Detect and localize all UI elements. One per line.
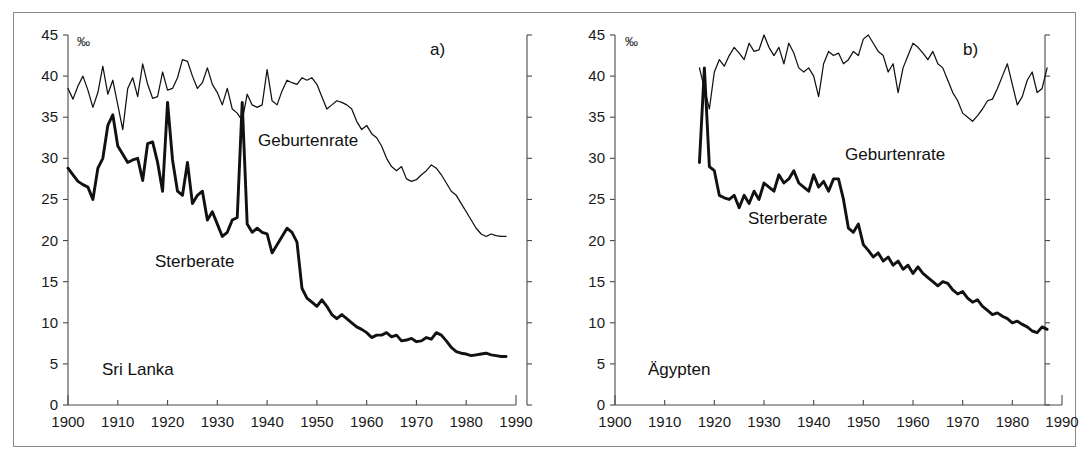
- panel-aegypten: 0510152025303540451900191019201930194019…: [545, 0, 1089, 462]
- y-tick-label-30: 30: [588, 149, 605, 166]
- y-tick-label-35: 35: [588, 108, 605, 125]
- y-tick-label-25: 25: [41, 190, 58, 207]
- chart-svg-aegypten: 0510152025303540451900191019201930194019…: [545, 0, 1089, 462]
- x-tick-label-1980: 1980: [450, 413, 483, 430]
- series-label-sterberate: Sterberate: [155, 252, 234, 271]
- x-tick-label-1960: 1960: [896, 413, 929, 430]
- y-tick-label-45: 45: [588, 26, 605, 43]
- x-tick-label-1930: 1930: [747, 413, 780, 430]
- y-tick-label-0: 0: [597, 396, 605, 413]
- x-tick-label-1950: 1950: [847, 413, 880, 430]
- y-tick-label-5: 5: [50, 355, 58, 372]
- panel-marker-label: b): [963, 40, 978, 59]
- x-tick-label-1940: 1940: [250, 413, 283, 430]
- x-tick-label-1920: 1920: [151, 413, 184, 430]
- y-axis-unit-label: ‰: [625, 34, 638, 49]
- x-tick-label-1910: 1910: [648, 413, 681, 430]
- y-tick-label-5: 5: [597, 355, 605, 372]
- curve-geburtenrate: [699, 35, 1047, 121]
- y-tick-label-30: 30: [41, 149, 58, 166]
- x-tick-label-1930: 1930: [201, 413, 234, 430]
- x-tick-label-1910: 1910: [101, 413, 134, 430]
- x-tick-label-1990: 1990: [499, 413, 532, 430]
- x-tick-label-1950: 1950: [300, 413, 333, 430]
- series-label-sterberate: Sterberate: [748, 209, 827, 228]
- y-tick-label-10: 10: [41, 314, 58, 331]
- series-label-geburtenrate: Geburtenrate: [258, 131, 358, 150]
- x-tick-label-1980: 1980: [996, 413, 1029, 430]
- series-label-geburtenrate: Geburtenrate: [845, 145, 945, 164]
- y-tick-label-40: 40: [41, 67, 58, 84]
- x-tick-label-1960: 1960: [350, 413, 383, 430]
- panel-marker-label: a): [430, 40, 445, 59]
- y-tick-label-45: 45: [41, 26, 58, 43]
- x-tick-label-1940: 1940: [797, 413, 830, 430]
- y-tick-label-25: 25: [588, 190, 605, 207]
- y-tick-label-0: 0: [50, 396, 58, 413]
- y-axis-unit-label: ‰: [77, 34, 90, 49]
- x-tick-label-1900: 1900: [51, 413, 84, 430]
- country-caption-label: Ägypten: [648, 360, 710, 379]
- x-tick-label-1970: 1970: [946, 413, 979, 430]
- y-tick-label-20: 20: [41, 232, 58, 249]
- country-caption-label: Sri Lanka: [102, 360, 174, 379]
- chart-svg-sri-lanka: 0510152025303540451900191019201930194019…: [0, 0, 545, 462]
- x-tick-label-1990: 1990: [1045, 413, 1078, 430]
- y-tick-label-15: 15: [41, 273, 58, 290]
- x-tick-label-1900: 1900: [598, 413, 631, 430]
- x-tick-label-1970: 1970: [400, 413, 433, 430]
- x-tick-label-1920: 1920: [698, 413, 731, 430]
- y-tick-label-40: 40: [588, 67, 605, 84]
- y-tick-label-20: 20: [588, 232, 605, 249]
- figure-page: 0510152025303540451900191019201930194019…: [0, 0, 1089, 462]
- panel-sri-lanka: 0510152025303540451900191019201930194019…: [0, 0, 545, 462]
- y-tick-label-10: 10: [588, 314, 605, 331]
- y-tick-label-15: 15: [588, 273, 605, 290]
- y-tick-label-35: 35: [41, 108, 58, 125]
- curve-sterberate: [699, 68, 1047, 333]
